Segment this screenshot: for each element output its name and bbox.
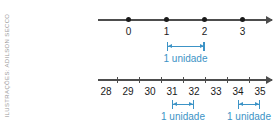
bottom-axis-line bbox=[98, 79, 272, 81]
bottom-unit-bracket-1 bbox=[172, 100, 194, 109]
number-line-figure: ILUSTRAÇÕES: ADILSON SECCO 0 1 2 3 1 uni… bbox=[0, 0, 280, 131]
bottom-tick-mark bbox=[117, 77, 118, 83]
bottom-axis-arrow-icon bbox=[266, 76, 273, 84]
bottom-tick-mark bbox=[183, 77, 184, 83]
illustration-credit: ILUSTRAÇÕES: ADILSON SECCO bbox=[0, 0, 14, 131]
bracket-arrow-right-icon bbox=[255, 102, 259, 106]
bracket-arrow-right-icon bbox=[200, 44, 204, 48]
bracket-arrow-left-icon bbox=[239, 102, 243, 106]
top-tick-label: 2 bbox=[202, 26, 208, 37]
bottom-unit-bracket-2 bbox=[238, 100, 260, 109]
top-point-marker bbox=[240, 17, 245, 22]
top-axis-line bbox=[98, 19, 272, 21]
top-point-marker bbox=[202, 17, 207, 22]
bottom-tick-label: 32 bbox=[188, 86, 199, 97]
bottom-tick-mark bbox=[139, 77, 140, 83]
bottom-tick-mark bbox=[205, 77, 206, 83]
bottom-tick-mark bbox=[249, 77, 250, 83]
bottom-tick-mark bbox=[227, 77, 228, 83]
top-point-marker bbox=[164, 17, 169, 22]
top-point-marker bbox=[126, 17, 131, 22]
top-tick-label: 0 bbox=[126, 26, 132, 37]
bracket-arrow-left-icon bbox=[168, 44, 172, 48]
bracket-arrow-left-icon bbox=[173, 102, 177, 106]
bottom-unit-label-1: 1 unidade bbox=[161, 111, 205, 122]
bottom-tick-label: 28 bbox=[100, 86, 111, 97]
bracket-arrow-right-icon bbox=[189, 102, 193, 106]
bottom-tick-label: 35 bbox=[254, 86, 265, 97]
bottom-tick-label: 34 bbox=[232, 86, 243, 97]
top-axis-arrow-icon bbox=[266, 16, 273, 24]
bottom-tick-label: 30 bbox=[144, 86, 155, 97]
bottom-tick-label: 33 bbox=[210, 86, 221, 97]
top-tick-label: 3 bbox=[240, 26, 246, 37]
bottom-tick-label: 31 bbox=[166, 86, 177, 97]
bottom-tick-mark bbox=[161, 77, 162, 83]
top-unit-bracket bbox=[167, 42, 205, 51]
top-unit-label: 1 unidade bbox=[164, 53, 208, 64]
bottom-unit-label-2: 1 unidade bbox=[227, 111, 271, 122]
top-tick-label: 1 bbox=[164, 26, 170, 37]
bottom-tick-label: 29 bbox=[122, 86, 133, 97]
